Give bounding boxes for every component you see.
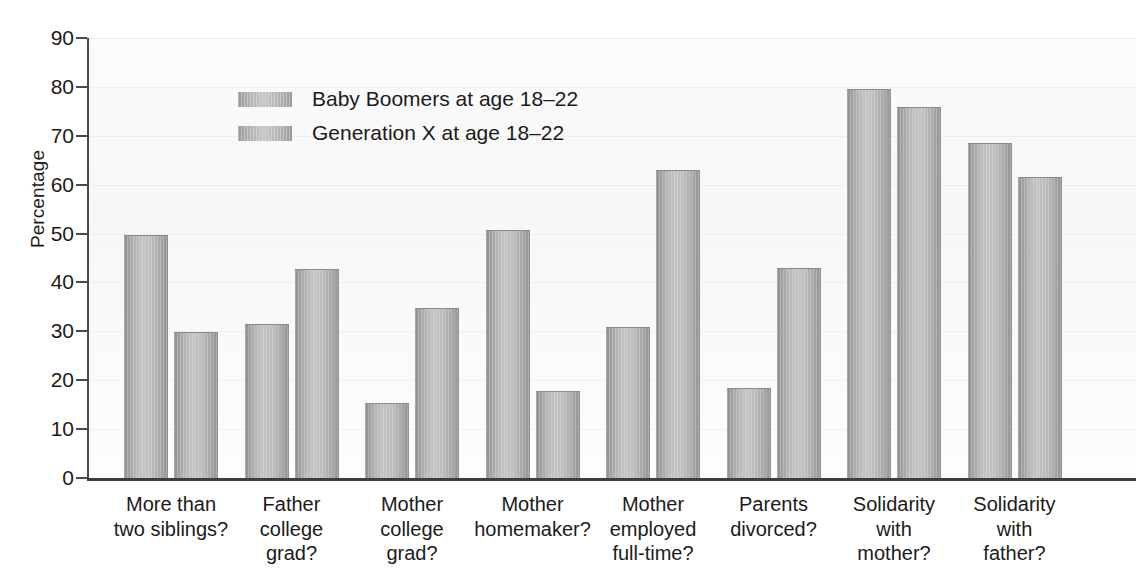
y-axis-tick [76, 135, 87, 137]
bar [847, 89, 891, 478]
category-label-line: Solidarity [824, 492, 964, 517]
bar [124, 235, 168, 478]
category-label-line: mother? [824, 541, 964, 566]
category-label-line: More than [101, 492, 241, 517]
bar [606, 327, 650, 478]
y-axis-tick-label: 70 [12, 125, 74, 146]
y-axis-tick [76, 86, 87, 88]
y-axis-tick [76, 281, 87, 283]
category-label: Motheremployedfull-time? [583, 492, 723, 566]
legend-label-series-2: Generation X at age 18–22 [312, 121, 564, 145]
bar [656, 170, 700, 478]
legend-swatch-icon-series-1 [238, 92, 292, 107]
category-label-line: Parents [704, 492, 844, 517]
chart-legend: Baby Boomers at age 18–22 Generation X a… [238, 82, 578, 150]
legend-item-series-2: Generation X at age 18–22 [238, 116, 578, 150]
category-label-line: employed [583, 517, 723, 542]
y-axis-tick [76, 428, 87, 430]
y-axis-tick [76, 379, 87, 381]
legend-swatch-icon-series-2 [238, 126, 292, 141]
y-axis-tick-label: 60 [12, 174, 74, 195]
category-label-line: father? [945, 541, 1085, 566]
category-label-line: college [222, 517, 362, 542]
x-axis-line [87, 478, 1136, 481]
y-axis-tick-label: 40 [12, 271, 74, 292]
bar [486, 230, 530, 478]
category-label-line: divorced? [704, 517, 844, 542]
y-axis-tick-label: 30 [12, 320, 74, 341]
category-label-line: college [342, 517, 482, 542]
legend-label-series-1: Baby Boomers at age 18–22 [312, 87, 578, 111]
bar [365, 403, 409, 478]
bar [245, 324, 289, 478]
category-label: Mothercollegegrad? [342, 492, 482, 566]
y-axis-tick [76, 233, 87, 235]
bar [727, 388, 771, 478]
y-axis-tick [76, 477, 87, 479]
category-label-line: with [945, 517, 1085, 542]
bar [174, 332, 218, 478]
y-axis-tick-label: 10 [12, 418, 74, 439]
category-label-line: grad? [222, 541, 362, 566]
y-axis-tick [76, 184, 87, 186]
y-axis-tick-label: 0 [12, 467, 74, 488]
category-label-line: Mother [342, 492, 482, 517]
bar [777, 268, 821, 478]
bar [295, 269, 339, 478]
bar [897, 107, 941, 478]
category-label: Motherhomemaker? [463, 492, 603, 541]
y-axis-tick-label: 50 [12, 223, 74, 244]
category-label-line: Solidarity [945, 492, 1085, 517]
category-label: Fathercollegegrad? [222, 492, 362, 566]
legend-item-series-1: Baby Boomers at age 18–22 [238, 82, 578, 116]
category-label-line: Father [222, 492, 362, 517]
category-label-line: grad? [342, 541, 482, 566]
category-label-line: full-time? [583, 541, 723, 566]
bar [968, 143, 1012, 478]
y-axis-tick-label: 90 [12, 27, 74, 48]
category-label-line: homemaker? [463, 517, 603, 542]
y-axis-tick-label: 20 [12, 369, 74, 390]
y-axis-tick-label: 80 [12, 76, 74, 97]
category-label: Solidaritywithmother? [824, 492, 964, 566]
category-label-line: Mother [583, 492, 723, 517]
bar [1018, 177, 1062, 478]
y-axis-tick [76, 330, 87, 332]
y-axis-line [87, 38, 89, 479]
bar [415, 308, 459, 478]
category-label-line: two siblings? [101, 517, 241, 542]
category-label-line: Mother [463, 492, 603, 517]
category-label: Parentsdivorced? [704, 492, 844, 541]
y-axis-tick [76, 37, 87, 39]
category-label-line: with [824, 517, 964, 542]
category-label: Solidaritywithfather? [945, 492, 1085, 566]
bar-chart: Percentage 9080706050403020100 Baby Boom… [0, 0, 1148, 588]
category-label: More thantwo siblings? [101, 492, 241, 541]
gridline [88, 38, 1136, 39]
bar [536, 391, 580, 478]
